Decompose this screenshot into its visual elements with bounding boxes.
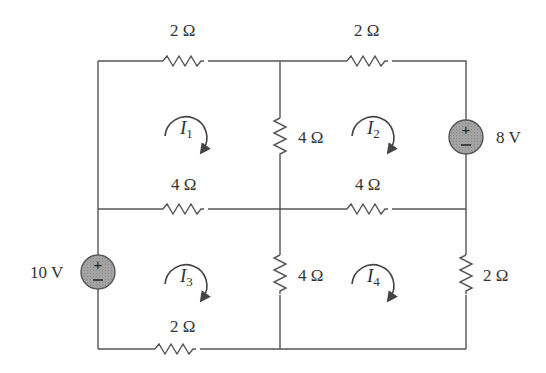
label-r-top-left: 2 Ω (170, 22, 195, 39)
label-source-10v: 10 V (30, 264, 63, 281)
circuit-wiring: + + (0, 0, 546, 373)
label-r-top-right: 2 Ω (354, 22, 379, 39)
resistor-bottom-left (155, 344, 196, 354)
label-r-right-lower: 2 Ω (483, 267, 508, 284)
resistor-mid-right (347, 204, 388, 214)
svg-text:+: + (94, 256, 103, 273)
label-mesh-i1: I1 (180, 118, 193, 140)
label-r-center-upper: 4 Ω (298, 129, 323, 146)
resistor-mid-left (163, 204, 204, 214)
label-mesh-i3: I3 (180, 266, 193, 288)
label-mesh-i2: I2 (367, 118, 380, 140)
resistor-top-left (163, 56, 204, 66)
label-r-mid-right: 4 Ω (355, 176, 380, 193)
label-source-8v: 8 V (496, 129, 521, 146)
label-r-bottom-left: 2 Ω (170, 318, 195, 335)
resistor-center-upper (274, 118, 286, 157)
label-r-mid-left: 4 Ω (171, 176, 196, 193)
wire-top (98, 61, 466, 120)
voltage-source-10v: + (81, 255, 115, 289)
label-r-center-lower: 4 Ω (298, 267, 323, 284)
voltage-source-8v: + (449, 120, 483, 154)
svg-text:+: + (462, 121, 471, 138)
circuit-diagram: + + 2 Ω 2 Ω 4 Ω 4 Ω 4 Ω 4 Ω 2 Ω 2 Ω 8 V … (0, 0, 546, 373)
resistor-top-right (347, 56, 388, 66)
label-mesh-i4: I4 (367, 266, 380, 288)
resistor-center-lower (274, 255, 286, 294)
resistor-right-lower (460, 255, 472, 294)
